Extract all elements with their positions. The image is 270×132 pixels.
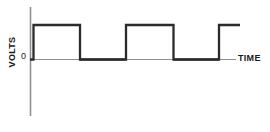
x-axis-label: TIME	[238, 53, 261, 63]
square-wave-trace	[30, 25, 240, 60]
zero-tick-label: 0	[21, 51, 26, 61]
waveform-plot	[0, 0, 270, 132]
square-wave-figure: VOLTS 0 TIME	[0, 0, 270, 132]
y-axis-label: VOLTS	[7, 30, 17, 74]
